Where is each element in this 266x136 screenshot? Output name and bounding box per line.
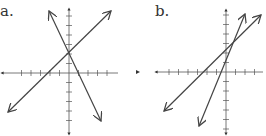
graph-line: [49, 11, 101, 121]
coordinate-graphs: [0, 0, 266, 136]
arrow-icon: [136, 70, 140, 74]
graph-b: [136, 10, 263, 134]
graph-line: [8, 11, 111, 112]
graph-a: [2, 9, 118, 134]
graph-line: [164, 15, 261, 111]
